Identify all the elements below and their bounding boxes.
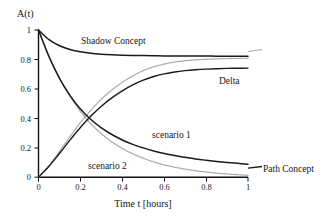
label-scenario-2: scenario 2 xyxy=(88,161,127,171)
y-tick-label: 1 xyxy=(27,25,31,35)
y-tick-label: 0.2 xyxy=(20,143,31,153)
line-chart-canvas: A(t) 1 0.8 0.6 0.4 0.2 0 xyxy=(0,0,327,221)
curve-group xyxy=(39,30,249,177)
x-tick-label: 0.6 xyxy=(159,182,170,192)
label-delta: Delta xyxy=(219,76,240,86)
x-axis-title: Time t [hours] xyxy=(114,198,171,209)
label-scenario-1: scenario 1 xyxy=(152,130,191,140)
curve-scenario-2 xyxy=(39,30,249,175)
x-tick-label: 0.8 xyxy=(201,182,212,192)
x-tick-label: 0.2 xyxy=(75,182,86,192)
y-tick-label: 0.4 xyxy=(20,114,31,124)
chart-figure: A(t) 1 0.8 0.6 0.4 0.2 0 xyxy=(0,0,327,221)
x-tick-label: 0 xyxy=(36,182,40,192)
x-tick-label: 0.4 xyxy=(117,182,128,192)
y-tick-label: 0.8 xyxy=(20,55,31,65)
y-tick-label: 0.6 xyxy=(20,84,31,94)
curve-delta xyxy=(39,58,249,177)
y-axis-title: A(t) xyxy=(17,8,34,20)
label-path-concept: Path Concept xyxy=(263,164,314,174)
y-axis-tick-labels: 1 0.8 0.6 0.4 0.2 0 xyxy=(20,25,31,182)
y-tick-label: 0 xyxy=(27,172,31,182)
label-leader-lines xyxy=(248,50,262,169)
x-tick-label: 1 xyxy=(246,182,250,192)
x-axis-tick-labels: 0 0.2 0.4 0.6 0.8 1 xyxy=(36,182,250,192)
label-shadow-concept: Shadow Concept xyxy=(81,36,146,46)
